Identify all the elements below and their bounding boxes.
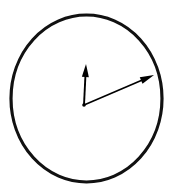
clock-figure (0, 0, 172, 189)
figure-background (0, 0, 172, 189)
clock-svg (0, 0, 172, 189)
center-hub (82, 103, 86, 107)
